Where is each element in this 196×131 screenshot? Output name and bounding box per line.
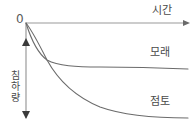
- x-axis-arrowhead-icon: [183, 20, 190, 26]
- x-axis-label: 시간: [152, 5, 172, 17]
- diagram-canvas: [0, 0, 196, 131]
- curve-label-clay: 점토: [150, 96, 170, 108]
- curve-label-sand: 모래: [150, 47, 170, 59]
- y-axis-arrowhead-up-icon: [22, 38, 30, 46]
- settlement-time-diagram: 0 시간 침하량 모래 점토: [0, 0, 196, 131]
- y-axis-arrowhead-down-icon: [22, 111, 30, 119]
- y-axis-label: 침하량: [9, 70, 22, 103]
- origin-label: 0: [16, 13, 24, 26]
